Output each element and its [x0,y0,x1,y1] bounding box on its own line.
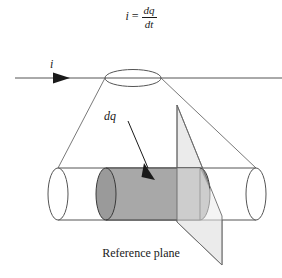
charge-element-label: dq [104,110,116,122]
cone-left-line [58,78,105,168]
reference-plane-caption: Reference plane [0,247,282,259]
current-label: i [50,58,53,70]
current-arrowhead [53,73,70,84]
dq-pointer-line [128,121,148,168]
cylinder-right-cap [246,168,266,220]
current-definition-diagram [0,0,282,278]
figure-root: i= dq dt i dq Reference plane [0,0,282,278]
cylinder-left-cap [48,168,68,220]
charge-slice-left-cap [96,168,116,220]
cone-right-line [161,78,256,168]
